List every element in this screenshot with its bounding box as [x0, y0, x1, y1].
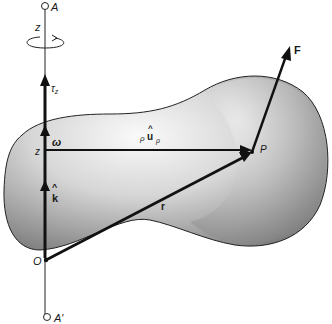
label-point-p: P [260, 144, 267, 155]
label-unit-k: k [52, 192, 59, 204]
label-position-r: r [161, 201, 165, 212]
open-circle-icon [44, 314, 51, 321]
label-rho: ρ [139, 134, 145, 143]
origin-point [44, 258, 48, 262]
label-center-z: z [34, 146, 40, 157]
label-k-hat: ^ [52, 182, 58, 192]
label-u-sub: ρ [155, 137, 160, 145]
label-force-f: F [294, 44, 301, 56]
label-unit-u: u [147, 131, 153, 142]
label-point-a: A [50, 1, 58, 13]
label-point-a-prime: A′ [53, 312, 64, 324]
label-origin: O [33, 255, 42, 267]
open-circle-icon [42, 3, 49, 10]
label-torque: τz [51, 83, 59, 95]
label-omega: ω [52, 136, 61, 148]
label-axis-z: z [34, 21, 41, 33]
rigid-body-rotation-diagram: A A′ z τz ω z ^ k ρ ^ u ρ r O P F [0, 0, 332, 324]
force-f-arrowhead [281, 46, 291, 61]
torque-arrowhead [40, 74, 50, 86]
